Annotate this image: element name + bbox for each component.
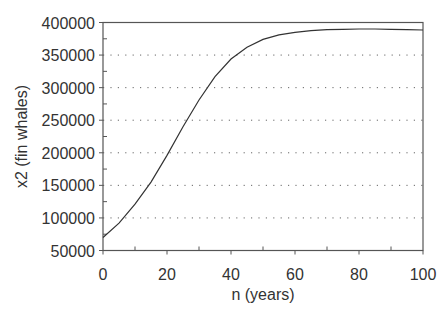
y-tick-label: 150000 [42, 177, 95, 194]
plot-frame [103, 23, 423, 251]
x-tick-label: 60 [286, 266, 304, 283]
gridlines [103, 55, 423, 218]
x-tick-label: 80 [350, 266, 368, 283]
x-tick-label: 100 [410, 266, 437, 283]
x-tick-label: 0 [99, 266, 108, 283]
x-tick-label: 40 [222, 266, 240, 283]
y-tick-label: 100000 [42, 210, 95, 227]
x-axis-ticks: 020406080100 [99, 247, 437, 283]
y-axis-ticks: 5000010000015000020000025000030000035000… [42, 15, 107, 260]
y-tick-label: 350000 [42, 47, 95, 64]
x-tick-label: 20 [158, 266, 176, 283]
line-chart: 5000010000015000020000025000030000035000… [0, 0, 448, 316]
y-tick-label: 200000 [42, 145, 95, 162]
y-axis-label: x2 (fin whales) [13, 85, 30, 188]
y-tick-label: 300000 [42, 80, 95, 97]
y-tick-label: 250000 [42, 112, 95, 129]
y-tick-label: 400000 [42, 15, 95, 32]
x-axis-label: n (years) [231, 286, 294, 303]
y-tick-label: 50000 [51, 243, 96, 260]
data-line-fin-whales [103, 29, 423, 238]
